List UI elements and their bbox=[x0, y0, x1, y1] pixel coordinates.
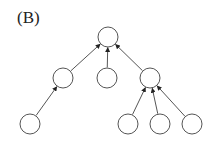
node-leaf-left bbox=[20, 114, 40, 134]
node-mid-left bbox=[53, 68, 73, 88]
edge-leaf-right-2-to-mid-right bbox=[152, 88, 158, 113]
node-mid-center bbox=[97, 68, 117, 88]
tree-diagram bbox=[0, 0, 214, 147]
node-leaf-right-3 bbox=[182, 114, 202, 134]
edge-mid-left-to-root bbox=[71, 44, 100, 71]
node-mid-right bbox=[140, 68, 160, 88]
node-leaf-right-1 bbox=[118, 114, 138, 134]
node-root bbox=[98, 27, 118, 47]
edge-leaf-right-3-to-mid-right bbox=[157, 86, 185, 116]
edge-leaf-right-1-to-mid-right bbox=[133, 87, 146, 114]
nodes-group bbox=[20, 27, 202, 134]
node-leaf-right-2 bbox=[150, 114, 170, 134]
edge-mid-right-to-root bbox=[116, 44, 143, 70]
edge-leaf-left-to-mid-left bbox=[36, 87, 57, 116]
